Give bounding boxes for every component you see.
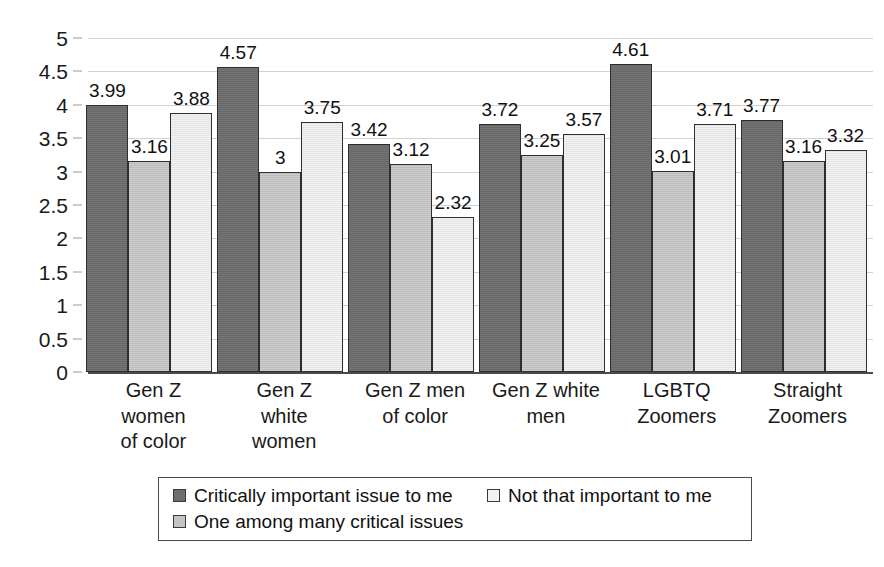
bar[interactable] [783,161,825,372]
bar[interactable] [610,64,652,372]
bar-column: 3.75 [301,38,343,372]
y-axis-tick-mark [73,171,82,172]
bar-value-label: 3.72 [481,100,518,119]
bar-column: 3.16 [783,38,825,372]
x-axis-category-label: Gen Zwomenof color [88,378,219,455]
x-axis-category-label: LGBTQZoomers [611,378,742,429]
bar-column: 3.99 [86,38,128,372]
x-axis-category-label: Gen Z menof color [350,378,481,429]
y-axis-tick-mark [73,138,82,139]
bar[interactable] [563,134,605,372]
bar[interactable] [652,171,694,372]
bar[interactable] [170,113,212,372]
bar-column: 3.32 [825,38,867,372]
bar[interactable] [217,67,259,372]
legend-item[interactable]: Critically important issue to me [173,486,453,505]
plot-area: 3.993.163.884.5733.753.423.122.323.723.2… [88,38,873,372]
bar-column: 3.71 [694,38,736,372]
bar-value-label: 3.16 [785,137,822,156]
bar-value-label: 3 [275,148,286,167]
y-axis-tick-label: 0.5 [39,328,68,349]
medium-gray-swatch [173,515,186,528]
legend-label: One among many critical issues [194,512,463,531]
dark-gray-swatch [173,489,186,502]
y-axis-tick-label: 2 [56,228,68,249]
bar-group: 3.723.253.57 [479,38,605,372]
y-axis-tick-label: 1 [56,295,68,316]
y-axis-tick-mark [73,104,82,105]
bars: 3.773.163.32 [741,38,867,372]
bar-value-label: 3.88 [173,89,210,108]
bar[interactable] [390,164,432,372]
bars: 3.723.253.57 [479,38,605,372]
y-axis-tick-mark [73,305,82,306]
legend-items: Critically important issue to meOne amon… [159,478,751,540]
legend-label: Critically important issue to me [194,486,453,505]
bar-group: 3.423.122.32 [348,38,474,372]
bar-value-label: 3.25 [523,131,560,150]
legend-item[interactable]: Not that important to me [487,486,712,505]
bar-value-label: 3.75 [304,98,341,117]
bar[interactable] [128,161,170,372]
bar-column: 4.57 [217,38,259,372]
x-axis-category-label: Gen Zwhitewomen [219,378,350,455]
y-axis-tick-label: 3 [56,161,68,182]
bar[interactable] [479,124,521,372]
bar-value-label: 3.42 [351,120,388,139]
y-axis-tick-mark [73,71,82,72]
y-axis-tick-label: 0 [56,362,68,383]
axis-baseline [88,372,873,374]
legend-label: Not that important to me [508,486,712,505]
bar-group: 4.613.013.71 [610,38,736,372]
bar-column: 3 [259,38,301,372]
bar-group: 3.993.163.88 [86,38,212,372]
bar-group: 4.5733.75 [217,38,343,372]
bar[interactable] [86,105,128,372]
bar-value-label: 3.16 [131,137,168,156]
light-gray-swatch [487,489,500,502]
x-axis: Gen Zwomenof colorGen ZwhitewomenGen Z m… [88,378,873,470]
bar-value-label: 3.57 [565,110,602,129]
bars: 4.5733.75 [217,38,343,372]
y-axis-tick-mark [73,271,82,272]
legend: Critically important issue to meOne amon… [158,477,752,541]
bar-column: 3.01 [652,38,694,372]
bar[interactable] [348,144,390,372]
bar[interactable] [259,172,301,372]
y-axis-tick-label: 3.5 [39,128,68,149]
bar-column: 3.42 [348,38,390,372]
bar-value-label: 4.57 [220,43,257,62]
bar-column: 3.57 [563,38,605,372]
y-axis-tick-label: 5 [56,28,68,49]
bar-column: 2.32 [432,38,474,372]
y-axis-tick-mark [73,338,82,339]
bar-value-label: 3.99 [89,81,126,100]
bar-value-label: 2.32 [435,193,472,212]
bar[interactable] [741,120,783,372]
bar-column: 3.12 [390,38,432,372]
bar-groups: 3.993.163.884.5733.753.423.122.323.723.2… [88,38,873,372]
bar-value-label: 3.01 [654,147,691,166]
bar[interactable] [521,155,563,372]
bar-chart: 54.543.532.521.510.50 3.993.163.884.5733… [0,0,884,567]
y-axis-tick-label: 4 [56,94,68,115]
y-axis-tick-label: 2.5 [39,195,68,216]
legend-item[interactable]: One among many critical issues [173,512,463,531]
bar[interactable] [825,150,867,372]
bar[interactable] [301,122,343,373]
y-axis-tick-mark [73,38,82,39]
bar-value-label: 3.12 [393,140,430,159]
y-axis-tick-mark [73,238,82,239]
bar[interactable] [694,124,736,372]
bar-column: 3.25 [521,38,563,372]
bar-value-label: 3.32 [827,126,864,145]
y-axis-tick-mark [73,372,82,373]
y-axis-tick-label: 4.5 [39,61,68,82]
bar-column: 4.61 [610,38,652,372]
bar-value-label: 4.61 [612,40,649,59]
bar-column: 3.72 [479,38,521,372]
y-axis: 54.543.532.521.510.50 [0,38,82,372]
bar[interactable] [432,217,474,372]
bar-value-label: 3.77 [743,96,780,115]
bars: 3.993.163.88 [86,38,212,372]
